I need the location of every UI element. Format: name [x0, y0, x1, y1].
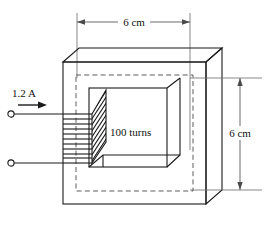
- vertical-dimension-group: 6 cm: [190, 78, 262, 190]
- core-window-receding-edge: [167, 78, 180, 88]
- upper-terminal-icon: [8, 111, 14, 117]
- coil-side-face: [86, 82, 112, 194]
- core-window-receding-edge-bottom: [167, 155, 180, 167]
- core-coil-diagram: 6 cm: [0, 0, 268, 225]
- horizontal-dimension-label: 6 cm: [123, 16, 145, 28]
- current-arrow-icon: [38, 102, 47, 109]
- horizontal-dimension-group: 6 cm: [77, 15, 190, 29]
- turns-label: 100 turns: [110, 126, 151, 138]
- arrowhead-up-icon: [237, 78, 242, 86]
- core-top-face: [63, 48, 222, 62]
- vertical-dimension-label: 6 cm: [229, 127, 251, 139]
- hatch-line: [86, 154, 112, 194]
- arrowhead-right-icon: [182, 19, 190, 24]
- coil-front-windings: [63, 114, 92, 163]
- core-right-face: [206, 48, 222, 204]
- current-label: 1.2 A: [12, 87, 36, 99]
- figure-container: 6 cm: [0, 0, 268, 225]
- coil-leads: [8, 111, 63, 166]
- coil-hatching: [86, 82, 112, 194]
- arrowhead-left-icon: [77, 19, 85, 24]
- current-annotation: 1.2 A: [12, 87, 47, 108]
- lower-terminal-icon: [8, 160, 14, 166]
- arrowhead-down-icon: [237, 182, 242, 190]
